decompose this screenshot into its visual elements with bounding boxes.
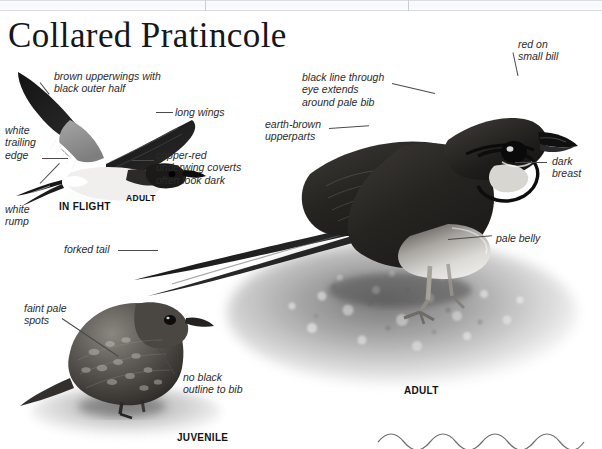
adult-bill: [538, 132, 578, 147]
label-no-black-outline-bib: no black outline to bib: [183, 371, 243, 396]
label-white-trailing-edge: white trailing edge: [5, 124, 36, 161]
caption-adult: ADULT: [404, 385, 439, 396]
adult-eye: [501, 141, 527, 163]
label-black-line-eye: black line through eye extends around pa…: [302, 71, 384, 108]
leader-long-wings: [156, 112, 173, 113]
scan-rule-divider-1: [205, 0, 206, 11]
caption-flight-adult: ADULT: [126, 193, 156, 203]
scan-rule-bottom: [0, 10, 602, 11]
page-title: Collared Pratincole: [8, 16, 287, 56]
label-earth-brown-upperparts: earth-brown upperparts: [265, 118, 321, 143]
scan-rule-top: [0, 0, 602, 1]
juvenile-eye: [164, 315, 176, 325]
label-copper-red-underwing: copper-red underwing coverts often look …: [156, 149, 241, 186]
juvenile-bill: [185, 317, 214, 326]
label-long-wings: long wings: [175, 106, 225, 118]
label-pale-belly: pale belly: [496, 232, 540, 244]
field-guide-page: Collared Pratincole: [0, 0, 602, 449]
flight-upperwing-inner: [59, 120, 104, 162]
caption-in-flight: IN FLIGHT: [59, 201, 111, 212]
scan-rule-divider-2: [408, 0, 409, 11]
leader-copper-red: [132, 160, 154, 161]
caption-juvenile: JUVENILE: [177, 432, 228, 443]
wave-rule-decoration: [376, 424, 586, 446]
label-faint-pale-spots: faint pale spots: [24, 302, 67, 327]
leader-dark-breast: [515, 162, 547, 163]
label-white-rump: white rump: [5, 203, 30, 228]
label-forked-tail: forked tail: [64, 243, 110, 255]
leader-forked-tail: [118, 250, 158, 251]
label-dark-breast: dark breast: [552, 155, 581, 180]
label-brown-upperwings: brown upperwings with black outer half: [54, 70, 161, 95]
leader-white-trailing-edge: [42, 158, 68, 159]
label-red-on-small-bill: red on small bill: [518, 38, 558, 63]
